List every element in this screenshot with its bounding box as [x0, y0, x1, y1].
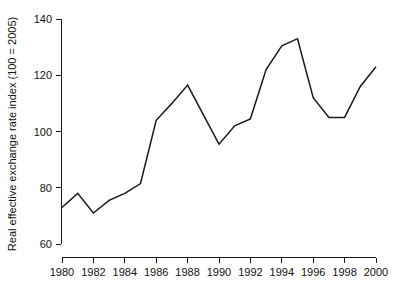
- y-axis-tick-label: 100: [34, 126, 52, 138]
- chart-container: 6080100120140 19801982198419861988199019…: [0, 0, 394, 290]
- x-axis-tick-label: 2000: [364, 266, 388, 278]
- x-axis-tick-labels: 1980198219841986198819901992199419961998…: [50, 266, 388, 278]
- y-axis-group: 6080100120140: [34, 13, 61, 250]
- x-axis-tick-label: 1986: [144, 266, 168, 278]
- x-axis-tick-label: 1980: [50, 266, 74, 278]
- x-axis-tick-label: 1990: [207, 266, 231, 278]
- x-axis-tick-label: 1994: [270, 266, 294, 278]
- data-series-line: [62, 39, 376, 213]
- x-axis-ticks: [62, 258, 376, 263]
- x-axis-tick-label: 1992: [238, 266, 262, 278]
- y-axis-tick-labels: 6080100120140: [34, 13, 52, 250]
- x-axis-tick-label: 1982: [81, 266, 105, 278]
- y-axis-tick-label: 80: [40, 182, 52, 194]
- line-chart: 6080100120140 19801982198419861988199019…: [0, 0, 394, 290]
- y-axis-tick-label: 60: [40, 238, 52, 250]
- x-axis-tick-label: 1988: [175, 266, 199, 278]
- y-axis-tick-label: 140: [34, 13, 52, 25]
- x-axis-group: 1980198219841986198819901992199419961998…: [50, 258, 388, 278]
- x-axis-tick-label: 1998: [332, 266, 356, 278]
- y-axis-title: Real effective exchange rate index (100 …: [6, 17, 18, 251]
- y-axis-ticks: [56, 19, 61, 244]
- x-axis-tick-label: 1996: [301, 266, 325, 278]
- x-axis-tick-label: 1984: [113, 266, 137, 278]
- y-axis-tick-label: 120: [34, 69, 52, 81]
